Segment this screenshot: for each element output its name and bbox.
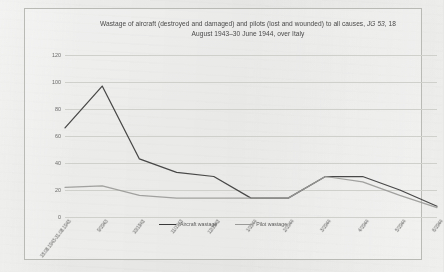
y-tick-label-80: 80 xyxy=(55,106,61,112)
legend-item-aircraft-wastage[interactable]: Aircraft wastage xyxy=(159,221,217,227)
legend-swatch-icon xyxy=(235,224,252,225)
series-line-pilot-wastage xyxy=(65,177,437,208)
y-tick-label-20: 20 xyxy=(55,187,61,193)
legend-swatch-icon xyxy=(159,224,176,225)
legend-label: Pilot wastage xyxy=(256,221,287,227)
gridline-0 xyxy=(65,217,437,218)
chart-legend: Aircraft wastagePilot wastage xyxy=(25,221,421,227)
chart-title: Wastage of aircraft (destroyed and damag… xyxy=(59,19,437,39)
y-tick-label-40: 40 xyxy=(55,160,61,166)
series-lines xyxy=(65,55,437,217)
y-tick-label-100: 100 xyxy=(52,79,61,85)
x-tick-label-10: 6/1944 xyxy=(432,219,444,233)
chart-frame: Wastage of aircraft (destroyed and damag… xyxy=(24,8,422,260)
y-tick-label-0: 0 xyxy=(58,214,61,220)
plot-area: 020406080100120 18.08.1943-31.08.19439/1… xyxy=(65,55,437,217)
chart-title-line1-pre: Wastage of aircraft (destroyed and damag… xyxy=(100,20,367,27)
chart-title-line1-post: , 18 xyxy=(385,20,396,27)
y-tick-label-120: 120 xyxy=(52,52,61,58)
legend-item-pilot-wastage[interactable]: Pilot wastage xyxy=(235,221,287,227)
chart-title-line2: August 1943–30 June 1944, over Italy xyxy=(192,30,305,37)
legend-label: Aircraft wastage xyxy=(180,221,217,227)
y-tick-label-60: 60 xyxy=(55,133,61,139)
chart-title-unit: JG 53 xyxy=(367,20,385,27)
